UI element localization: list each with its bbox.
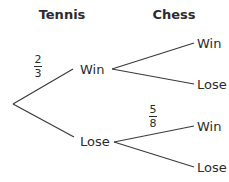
- probability-chess-win-after-lose: 5 8: [149, 104, 157, 129]
- node-tennis-win: Win: [80, 63, 104, 76]
- fraction-numerator: 2: [35, 54, 42, 65]
- node-chess-lose-after-win: Lose: [197, 78, 227, 91]
- branch-tennis-win-to-chess-win: [112, 43, 194, 69]
- node-chess-lose-after-lose: Lose: [197, 161, 227, 174]
- branch-tennis-lose-to-chess-lose: [114, 142, 194, 167]
- tree-branches: [0, 0, 229, 182]
- node-chess-win-after-lose: Win: [197, 120, 221, 133]
- probability-tennis-win: 2 3: [34, 54, 42, 79]
- branch-root-to-tennis-win: [13, 69, 73, 104]
- fraction-denominator: 8: [150, 118, 157, 129]
- stage-header-chess: Chess: [152, 8, 195, 21]
- fraction-denominator: 3: [35, 68, 42, 79]
- branch-root-to-tennis-lose: [13, 104, 74, 137]
- probability-tree-diagram: Tennis Chess 2 3 5 8 Win Lose Win Lose W…: [0, 0, 229, 182]
- fraction-numerator: 5: [150, 104, 157, 115]
- stage-header-tennis: Tennis: [39, 8, 86, 21]
- node-chess-win-after-win: Win: [197, 37, 221, 50]
- node-tennis-lose: Lose: [80, 135, 110, 148]
- branch-tennis-win-to-chess-lose: [112, 69, 194, 84]
